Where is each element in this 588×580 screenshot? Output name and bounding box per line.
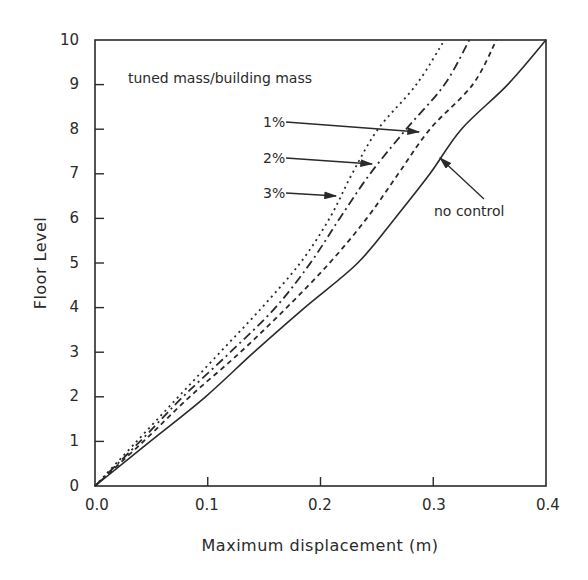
x-tick-2: 0.2 [308, 496, 332, 514]
x-tick-0: 0.0 [85, 496, 109, 514]
y-tick-6: 6 [69, 209, 79, 227]
series-line-3-percent [95, 40, 445, 486]
arrow-no-control [440, 158, 484, 199]
legend-title: tuned mass/building mass [128, 70, 312, 86]
x-tick-1: 0.1 [195, 496, 219, 514]
x-tick-labels: 0.0 0.1 0.2 0.3 0.4 [85, 496, 560, 514]
label-3-percent: 3% [263, 185, 285, 201]
y-tick-2: 2 [69, 387, 79, 405]
y-tick-8: 8 [69, 120, 79, 138]
series-layer [95, 40, 546, 486]
y-axis-ticks [95, 85, 104, 442]
series-line-no-control [95, 40, 546, 486]
arrow-3-percent [286, 193, 336, 196]
y-tick-3: 3 [69, 343, 79, 361]
x-tick-3: 0.3 [422, 496, 446, 514]
label-no-control: no control [434, 203, 504, 219]
plot-frame [95, 40, 546, 486]
y-tick-10: 10 [60, 31, 79, 49]
y-tick-7: 7 [69, 164, 79, 182]
series-line-1-percent [95, 40, 496, 486]
arrow-1-percent [286, 122, 419, 132]
y-tick-5: 5 [69, 254, 79, 272]
label-1-percent: 1% [263, 114, 285, 130]
y-tick-0: 0 [69, 477, 79, 495]
y-tick-1: 1 [69, 432, 79, 450]
x-axis-title: Maximum displacement (m) [202, 536, 439, 555]
y-axis-title: Floor Level [31, 217, 50, 310]
label-2-percent: 2% [263, 150, 285, 166]
x-axis-ticks [208, 477, 434, 486]
x-tick-4: 0.4 [536, 496, 560, 514]
series-line-2-percent [95, 40, 469, 486]
y-tick-labels: 0 1 2 3 4 5 6 7 8 9 10 [60, 31, 79, 495]
y-tick-9: 9 [69, 75, 79, 93]
floor-displacement-chart: 0 1 2 3 4 5 6 7 8 9 10 0.0 0.1 0.2 0.3 0… [0, 0, 588, 580]
y-tick-4: 4 [69, 298, 79, 316]
